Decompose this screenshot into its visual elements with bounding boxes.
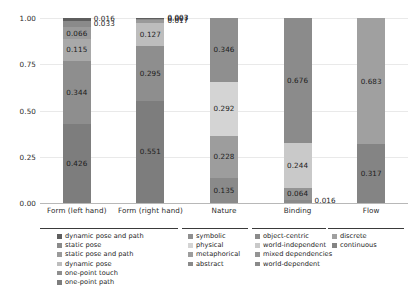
- chart-legend: dynamic pose and pathstatic posestatic p…: [0, 228, 412, 286]
- legend-swatch-icon: [255, 252, 260, 257]
- legend-item[interactable]: symbolic: [188, 232, 240, 241]
- legend-item-label: metaphorical: [196, 251, 240, 258]
- legend-item[interactable]: one-point path: [57, 278, 144, 287]
- legend-swatch-icon: [332, 243, 337, 248]
- legend-swatch-icon: [255, 234, 260, 239]
- y-axis-tick-label: 1.00: [20, 14, 36, 23]
- legend-item-label: world-dependent: [263, 261, 320, 268]
- legend-item-label: one-point touch: [65, 270, 118, 277]
- bar-segment-value-label: 0.551: [140, 148, 161, 155]
- legend-item[interactable]: continuous: [332, 241, 377, 250]
- bar-column[interactable]: 0.0160.0330.0660.1150.3440.426: [63, 18, 91, 203]
- bar-segment[interactable]: 0.346: [210, 18, 238, 82]
- bar-segment-value-label: 0.344: [66, 89, 87, 96]
- bar-segment[interactable]: 0.426: [63, 124, 91, 203]
- bar-segment-value-label: 0.292: [213, 105, 234, 112]
- legend-swatch-icon: [57, 271, 62, 276]
- legend-item-label: object-centric: [263, 233, 309, 240]
- y-axis-tick-label: 0.00: [20, 199, 36, 208]
- bar-segment-value-label: 0.228: [213, 153, 234, 160]
- axis-baseline: [40, 203, 408, 204]
- legend-item[interactable]: world-independent: [255, 241, 332, 250]
- legend-item-label: one-point path: [65, 279, 114, 286]
- legend-swatch-icon: [188, 234, 193, 239]
- legend-swatch-icon: [57, 280, 62, 285]
- legend-group-form: dynamic pose and pathstatic posestatic p…: [57, 232, 144, 287]
- legend-item[interactable]: discrete: [332, 232, 377, 241]
- legend-swatch-icon: [188, 262, 193, 267]
- bar-segment-value-label: 0.066: [66, 30, 87, 37]
- bar-segment[interactable]: 0.295: [136, 46, 164, 101]
- legend-item-label: mixed dependencies: [263, 251, 332, 258]
- bar-segment[interactable]: 0.551: [136, 101, 164, 203]
- legend-item[interactable]: metaphorical: [188, 250, 240, 259]
- bar-segment-value-label: 0.676: [287, 77, 308, 84]
- bar-segment[interactable]: 0.683: [357, 18, 385, 144]
- bar-segment[interactable]: 0.127: [136, 23, 164, 46]
- bar-segment-value-label: 0.017: [167, 18, 188, 25]
- bar-segment[interactable]: 0.115: [63, 39, 91, 60]
- legend-item[interactable]: abstract: [188, 260, 240, 269]
- plot-area: 0.0160.0330.0660.1150.3440.4260.0030.007…: [40, 18, 408, 203]
- legend-swatch-icon: [57, 243, 62, 248]
- x-axis-tick-label: Binding: [261, 206, 335, 215]
- legend-item-label: symbolic: [196, 233, 226, 240]
- legend-item[interactable]: object-centric: [255, 232, 332, 241]
- bar-segment-value-label: 0.426: [66, 160, 87, 167]
- stacked-bar-chart: 0.000.250.500.751.00 0.0160.0330.0660.11…: [0, 0, 412, 289]
- bar-segment[interactable]: 0.676: [284, 18, 312, 143]
- stacked-bar[interactable]: 0.3460.2920.2280.135: [210, 18, 238, 203]
- y-axis: 0.000.250.500.751.00: [0, 0, 40, 222]
- legend-item[interactable]: static pose: [57, 241, 144, 250]
- bar-segment-value-label: 0.127: [140, 31, 161, 38]
- legend-item-label: physical: [196, 242, 223, 249]
- x-axis-tick-label: Form (left hand): [40, 206, 114, 215]
- y-axis-tick-label: 0.75: [20, 60, 36, 69]
- legend-item-label: dynamic pose and path: [65, 233, 144, 240]
- bar-column[interactable]: 0.3460.2920.2280.135: [210, 18, 238, 203]
- x-axis-tick-label: Form (right hand): [114, 206, 188, 215]
- legend-swatch-icon: [255, 243, 260, 248]
- legend-swatch-icon: [188, 252, 193, 257]
- bar-segment-value-label: 0.115: [66, 46, 87, 53]
- bar-segment[interactable]: 0.016: [284, 200, 312, 203]
- legend-swatch-icon: [255, 262, 260, 267]
- bar-column[interactable]: 0.6830.317: [357, 18, 385, 203]
- legend-divider: [252, 228, 326, 229]
- bar-segment-value-label: 0.135: [213, 187, 234, 194]
- stacked-bar[interactable]: 0.0160.0330.0660.1150.3440.426: [63, 18, 91, 203]
- bar-segment[interactable]: 0.292: [210, 82, 238, 136]
- bar-column[interactable]: 0.6760.2440.0640.016: [284, 18, 312, 203]
- bar-segment-value-label: 0.244: [287, 162, 308, 169]
- bar-segment[interactable]: 0.317: [357, 144, 385, 203]
- bar-segment-value-label: 0.033: [94, 20, 115, 27]
- stacked-bar[interactable]: 0.0030.0070.0170.1270.2950.551: [136, 18, 164, 203]
- legend-item-label: discrete: [340, 233, 367, 240]
- stacked-bar[interactable]: 0.6830.317: [357, 18, 385, 203]
- legend-item[interactable]: mixed dependencies: [255, 250, 332, 259]
- legend-item[interactable]: static pose and path: [57, 250, 144, 259]
- legend-item[interactable]: dynamic pose and path: [57, 232, 144, 241]
- bar-segment-value-label: 0.317: [361, 170, 382, 177]
- legend-group-nature: symbolicphysicalmetaphoricalabstract: [188, 232, 240, 269]
- legend-group-flow: discretecontinuous: [332, 232, 377, 250]
- y-axis-tick-label: 0.25: [20, 152, 36, 161]
- bar-segment-value-label: 0.295: [140, 70, 161, 77]
- bar-segment[interactable]: 0.135: [210, 178, 238, 203]
- bar-segment[interactable]: 0.066: [63, 27, 91, 39]
- legend-item[interactable]: one-point touch: [57, 269, 144, 278]
- legend-item[interactable]: world-dependent: [255, 260, 332, 269]
- bar-segment-value-label: 0.016: [315, 198, 336, 205]
- bar-segment[interactable]: 0.228: [210, 136, 238, 178]
- legend-item-label: static pose: [65, 242, 101, 249]
- x-axis-tick-label: Nature: [187, 206, 261, 215]
- legend-item[interactable]: physical: [188, 241, 240, 250]
- legend-item[interactable]: dynamic pose: [57, 260, 144, 269]
- legend-item-label: dynamic pose: [65, 261, 112, 268]
- bar-column[interactable]: 0.0030.0070.0170.1270.2950.551: [136, 18, 164, 203]
- bar-segment[interactable]: 0.344: [63, 61, 91, 125]
- bar-segment[interactable]: 0.244: [284, 143, 312, 188]
- stacked-bar[interactable]: 0.6760.2440.0640.016: [284, 18, 312, 203]
- bar-segment[interactable]: 0.064: [284, 188, 312, 200]
- legend-item-label: static pose and path: [65, 251, 134, 258]
